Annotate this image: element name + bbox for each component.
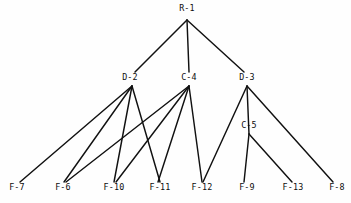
node-label-F-9[interactable]: F-9 bbox=[239, 182, 255, 192]
node-label-C-4[interactable]: C-4 bbox=[181, 72, 197, 82]
node-label-F-8[interactable]: F-8 bbox=[329, 182, 345, 192]
node-label-F-11[interactable]: F-11 bbox=[150, 182, 171, 192]
edge-D-2-to-F-6 bbox=[64, 86, 132, 182]
tree-diagram: R-1D-2C-4D-3C-5F-7F-6F-10F-11F-12F-9F-13… bbox=[0, 0, 351, 203]
node-label-C-5[interactable]: C-5 bbox=[241, 120, 257, 130]
edge-C-5-to-F-13 bbox=[249, 134, 292, 182]
edge-D-2-to-F-10 bbox=[114, 86, 132, 182]
edge-C-4-to-F-11 bbox=[158, 86, 189, 182]
node-label-F-7[interactable]: F-7 bbox=[9, 182, 25, 192]
node-layer: R-1D-2C-4D-3C-5F-7F-6F-10F-11F-12F-9F-13… bbox=[9, 3, 345, 192]
edge-R-1-to-D-3 bbox=[187, 20, 244, 72]
node-label-F-13[interactable]: F-13 bbox=[283, 182, 304, 192]
edge-C-5-to-F-9 bbox=[244, 134, 249, 182]
edge-C-4-to-F-12 bbox=[189, 86, 202, 182]
node-label-R-1[interactable]: R-1 bbox=[179, 3, 195, 13]
edge-D-3-to-F-8 bbox=[247, 86, 333, 182]
edge-D-2-to-F-11 bbox=[132, 86, 160, 182]
node-label-F-12[interactable]: F-12 bbox=[192, 182, 213, 192]
edge-D-3-to-F-12 bbox=[203, 86, 247, 182]
edge-R-1-to-D-2 bbox=[135, 20, 187, 72]
edge-D-2-to-F-7 bbox=[20, 86, 132, 182]
edge-R-1-to-C-4 bbox=[187, 20, 189, 72]
node-label-F-6[interactable]: F-6 bbox=[55, 182, 71, 192]
edge-layer bbox=[20, 20, 333, 182]
node-label-F-10[interactable]: F-10 bbox=[104, 182, 125, 192]
node-label-D-2[interactable]: D-2 bbox=[122, 72, 138, 82]
graph-canvas: R-1D-2C-4D-3C-5F-7F-6F-10F-11F-12F-9F-13… bbox=[0, 0, 351, 203]
node-label-D-3[interactable]: D-3 bbox=[239, 72, 255, 82]
